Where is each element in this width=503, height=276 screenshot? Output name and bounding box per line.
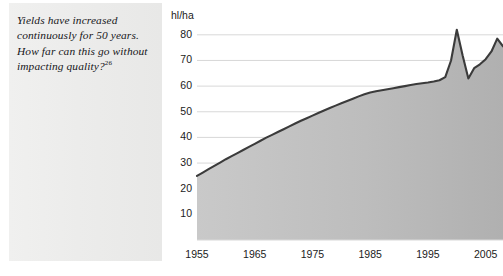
caption-body: Yields have increased continuously for 5…: [17, 14, 148, 72]
y-tick-label: 20: [166, 182, 192, 194]
x-tick-label: 2005: [466, 248, 503, 260]
x-tick-label: 1995: [408, 248, 448, 260]
y-tick-label: 50: [166, 105, 192, 117]
x-tick-label: 1965: [235, 248, 275, 260]
y-tick-label: 30: [166, 156, 192, 168]
y-tick-label: 70: [166, 53, 192, 65]
y-tick-label: 10: [166, 207, 192, 219]
y-tick-label: 80: [166, 28, 192, 40]
caption-text: Yields have increased continuously for 5…: [17, 13, 159, 74]
figure-root: Yields have increased continuously for 5…: [0, 0, 503, 276]
y-tick-label: 40: [166, 130, 192, 142]
yield-area-chart: hl/ha 1020304050607080 19551965197519851…: [166, 0, 503, 276]
caption-panel: Yields have increased continuously for 5…: [9, 3, 162, 261]
plot-area: [166, 0, 503, 276]
x-tick-label: 1955: [177, 248, 217, 260]
x-tick-label: 1985: [350, 248, 390, 260]
x-tick-label: 1975: [292, 248, 332, 260]
footnote-marker: 26: [105, 59, 112, 67]
y-tick-label: 60: [166, 79, 192, 91]
